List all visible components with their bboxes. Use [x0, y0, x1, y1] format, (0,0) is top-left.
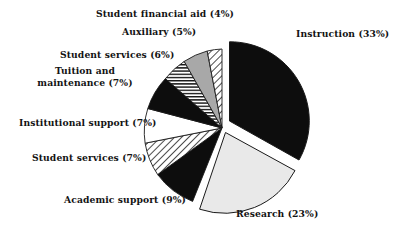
slice-label-student-financial-aid: Student financial aid (4%) [96, 8, 234, 20]
slice-label-research: Research (23%) [236, 208, 318, 220]
slice-label-auxiliary: Auxiliary (5%) [122, 26, 196, 38]
tuition-label-line-2: maintenance (7%) [37, 77, 132, 88]
tuition-label-line-1: Tuition and [55, 65, 115, 76]
slice-label-instruction: Instruction (33%) [296, 28, 389, 40]
slice-label-student-services-7: Student services (7%) [32, 152, 146, 164]
slice-label-student-services-6: Student services (6%) [60, 49, 174, 61]
pie-chart-figure: Student financial aid (4%) Auxiliary (5%… [0, 0, 393, 236]
slice-label-academic-support: Academic support (9%) [64, 194, 186, 206]
slice-label-tuition-maintenance: Tuition and maintenance (7%) [37, 65, 133, 88]
slice-label-institutional-support: Institutional support (7%) [19, 117, 157, 129]
